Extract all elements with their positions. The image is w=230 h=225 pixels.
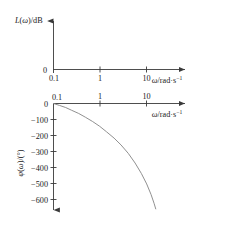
magnitude-x-axis-label: ω/rad·s−1 <box>152 75 183 85</box>
phase-y-axis-label: φ(ω)/(°) <box>16 149 25 176</box>
phase-curve <box>54 104 156 209</box>
magnitude-origin-label: 0 <box>43 66 47 75</box>
phase-ytick-label--100: −100 <box>31 116 48 125</box>
magnitude-plot: L(ω)/dB 0 0.1 1 10 ω/rad·s−1 <box>14 16 185 85</box>
phase-ytick-label--500: −500 <box>31 180 48 189</box>
magnitude-xtick-label-0.1: 0.1 <box>49 74 59 83</box>
phase-xtick-label-10: 10 <box>142 92 150 101</box>
phase-ytick-label--200: −200 <box>31 132 48 141</box>
phase-xtick-label-1: 1 <box>98 92 102 101</box>
magnitude-y-axis-label: L(ω)/dB <box>14 16 43 25</box>
phase-origin-label: 0 <box>44 100 48 109</box>
phase-x-axis-label: ω/rad·s−1 <box>152 109 183 119</box>
phase-ytick-label--600: −600 <box>31 196 48 205</box>
magnitude-xtick-label-10: 10 <box>142 74 150 83</box>
bode-diagram-figure: L(ω)/dB 0 0.1 1 10 ω/rad·s−1 <box>0 0 230 225</box>
phase-ytick-label--400: −400 <box>31 164 48 173</box>
phase-plot: φ(ω)/(°) 0 0.1 1 10 −100 −200 −300 −400 … <box>16 92 185 211</box>
magnitude-xtick-label-1: 1 <box>98 74 102 83</box>
phase-xtick-label-0.1: 0.1 <box>52 93 62 102</box>
phase-ytick-label--300: −300 <box>31 148 48 157</box>
